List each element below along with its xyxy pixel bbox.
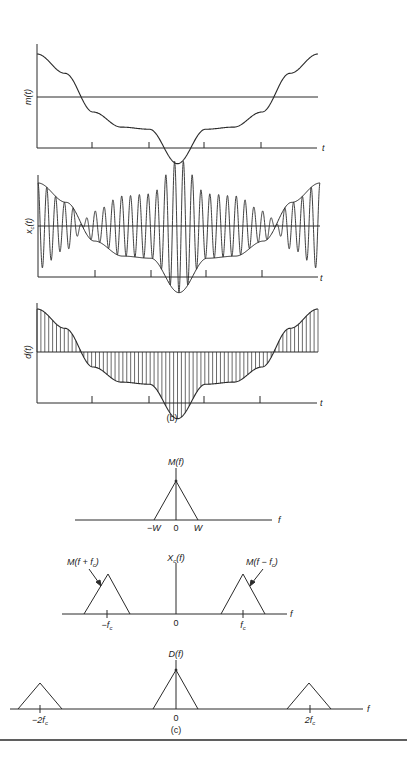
D-xlabel: f (367, 704, 371, 714)
arrow-right-annotation (250, 569, 263, 586)
M-tick-W: W (194, 523, 204, 533)
D-right-triangle (287, 683, 331, 709)
M-title: M(f) (168, 457, 184, 467)
xc-ticks (95, 270, 262, 277)
d-xlabel: t (320, 398, 323, 408)
m-ticks (92, 142, 261, 148)
plot-xc-t (38, 161, 320, 292)
Xc-annotation-left: M(f + fc) (67, 557, 99, 568)
plot-D-f (10, 660, 363, 713)
Xc-title: Xc(f) (166, 553, 185, 564)
figure-canvas: m(t) xc(t) d(t) t t t (b) M(f) −W 0 W f … (0, 0, 417, 773)
m-xlabel: t (322, 143, 325, 153)
plot-Xc-f (62, 563, 287, 618)
xc-envelope-upper (38, 183, 320, 293)
arrow-left-annotation (89, 569, 101, 586)
D-tick-neg-2fc-label: −2fc (32, 715, 48, 726)
plot-m-t (37, 44, 318, 164)
M-tick-neg-W: −W (147, 523, 162, 533)
caption-c: (c) (171, 725, 182, 735)
Xc-left-triangle (84, 574, 130, 614)
D-title: D(f) (169, 649, 184, 659)
Xc-tick-zero-label: 0 (173, 618, 178, 628)
caption-b: (b) (167, 413, 178, 423)
xc-ylabel: xc(t) (24, 218, 35, 235)
d-ylabel: d(t) (23, 345, 33, 359)
M-xlabel: f (278, 515, 282, 525)
Xc-xlabel: f (290, 609, 294, 619)
M-tick-zero: 0 (173, 523, 178, 533)
M-peak-dot (175, 480, 177, 482)
Xc-tick-pos-fc-label: fc (240, 620, 246, 631)
xc-t-carrier-curve (38, 161, 320, 292)
plot-M-f (75, 468, 272, 520)
d-t-oscillation (37, 309, 318, 419)
d-ticks (92, 396, 260, 403)
Xc-annotation-right: M(f − fc) (246, 557, 278, 568)
plot-d-t (37, 303, 318, 419)
D-tick-zero-label: 0 (173, 713, 178, 723)
D-tick-pos-2fc-label: 2fc (304, 715, 316, 726)
Xc-tick-neg-fc-label: −fc (102, 620, 113, 631)
D-peak-dot (175, 669, 177, 671)
xc-xlabel: t (320, 273, 323, 283)
m-ylabel: m(t) (23, 89, 33, 105)
m-t-curve (37, 54, 318, 164)
Xc-right-triangle (221, 574, 265, 614)
